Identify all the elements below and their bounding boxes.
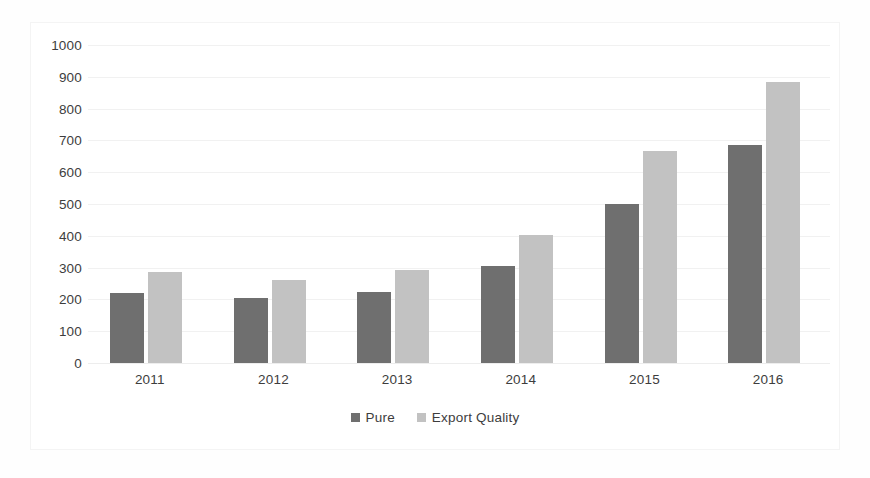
x-tick-label: 2014 — [505, 372, 536, 387]
x-tick-label: 2013 — [382, 372, 413, 387]
y-axis: 01002003004005006007008009001000 — [30, 45, 82, 363]
y-tick-label: 900 — [59, 69, 82, 84]
legend-swatch-icon — [417, 413, 426, 422]
x-tick-label: 2016 — [753, 372, 784, 387]
x-tick-label: 2015 — [629, 372, 660, 387]
bar-export-quality-2013[interactable] — [395, 270, 429, 363]
y-tick-label: 300 — [59, 260, 82, 275]
legend-label: Pure — [366, 410, 395, 425]
bar-group — [335, 45, 459, 363]
legend-item-export-quality[interactable]: Export Quality — [417, 410, 520, 425]
y-tick-label: 700 — [59, 133, 82, 148]
y-tick-label: 500 — [59, 197, 82, 212]
bar-export-quality-2014[interactable] — [519, 235, 553, 363]
bar-group — [88, 45, 212, 363]
bar-pure-2014[interactable] — [481, 266, 515, 363]
x-axis: 201120122013201420152016 — [88, 372, 830, 394]
bar-pure-2011[interactable] — [110, 293, 144, 363]
bar-group — [583, 45, 707, 363]
bar-chart-figure: 01002003004005006007008009001000 2011201… — [0, 0, 870, 478]
bars-layer — [88, 45, 830, 363]
bar-group — [212, 45, 336, 363]
y-tick-label: 0 — [74, 356, 82, 371]
y-tick-label: 800 — [59, 101, 82, 116]
y-tick-label: 400 — [59, 228, 82, 243]
bar-pure-2012[interactable] — [234, 298, 268, 363]
gridline — [88, 363, 830, 364]
x-tick-label: 2012 — [258, 372, 289, 387]
bar-pure-2015[interactable] — [605, 204, 639, 363]
bar-pure-2016[interactable] — [728, 145, 762, 363]
bar-export-quality-2016[interactable] — [766, 82, 800, 363]
bar-group — [706, 45, 830, 363]
bar-export-quality-2015[interactable] — [643, 151, 677, 363]
bar-export-quality-2012[interactable] — [272, 280, 306, 363]
chart-legend: PureExport Quality — [0, 410, 870, 425]
bar-pure-2013[interactable] — [357, 292, 391, 363]
x-tick-label: 2011 — [135, 372, 165, 387]
y-tick-label: 600 — [59, 165, 82, 180]
bar-export-quality-2011[interactable] — [148, 272, 182, 363]
y-tick-label: 200 — [59, 292, 82, 307]
y-tick-label: 100 — [59, 324, 82, 339]
bar-group — [459, 45, 583, 363]
legend-label: Export Quality — [432, 410, 520, 425]
legend-item-pure[interactable]: Pure — [351, 410, 395, 425]
y-tick-label: 1000 — [51, 38, 82, 53]
legend-swatch-icon — [351, 413, 360, 422]
